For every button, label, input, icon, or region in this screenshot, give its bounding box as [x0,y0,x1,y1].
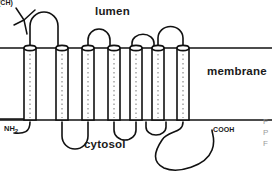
carbohydrate-branch-b [24,10,35,20]
n-terminus-text: NH [4,124,15,133]
helix-1 [24,45,36,120]
edge-fragment-line-2: P [263,127,272,138]
helix-2-cap [56,45,68,50]
helix-2 [56,45,68,120]
helix-7 [177,45,189,120]
membrane-protein-topology-diagram: (CH) lumen membrane cytosol NH2 COOH F P… [0,0,272,171]
carbohydrate-label: (CH) [0,0,13,6]
cytosolic-loop-6-7-lower [146,122,166,135]
helix-4-cap [108,45,120,50]
n-terminus-subscript: 2 [15,128,18,134]
transmembrane-helices [24,45,189,120]
carbohydrate-branch-a [16,8,24,20]
lumenal-loop-1-2 [30,12,58,46]
n-terminal-carbohydrate-group [14,8,35,34]
helix-3-cap [82,45,94,50]
edge-fragment-line-1: F [263,116,272,127]
helix-5 [130,45,142,120]
cytosol-label: cytosol [84,138,126,150]
n-terminus-label: NH2 [4,124,18,133]
membrane-label: membrane [207,65,267,77]
lumenal-loop-5-6 [132,34,154,46]
helix-5-cap [130,45,142,50]
lumen-label: lumen [95,5,130,17]
helix-3 [82,45,94,120]
lumenal-loop-6-7 [158,27,183,46]
c-terminus-strand [156,122,214,170]
helix-4 [108,45,120,120]
c-terminus-tail [156,122,214,170]
lumenal-loops [30,12,183,46]
edge-fragment-line-3: F [263,138,272,149]
lumenal-loop-3-4 [88,29,110,46]
carbohydrate-branch-c [14,20,24,25]
carbohydrate-stem [24,20,27,34]
helix-6 [152,45,164,120]
c-terminus-label: COOH [213,126,234,133]
topology-drawing [0,0,272,171]
helix-6-cap [152,45,164,50]
cropped-edge-text: F P F [263,116,272,149]
helix-1-cap [24,45,36,50]
helix-7-cap [177,45,189,50]
